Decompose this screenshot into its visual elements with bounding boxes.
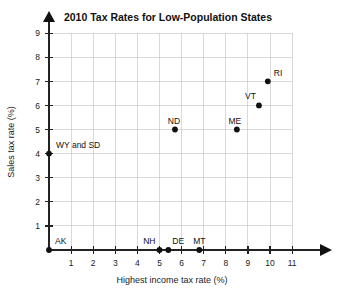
x-axis-arrow bbox=[320, 244, 332, 256]
y-tick-label: 6 bbox=[35, 101, 40, 111]
axes bbox=[43, 11, 332, 256]
data-point bbox=[172, 127, 178, 133]
x-tick-label: 4 bbox=[135, 258, 140, 268]
x-tick-label: 5 bbox=[157, 258, 162, 268]
data-point bbox=[234, 127, 240, 133]
chart-title: 2010 Tax Rates for Low-Population States bbox=[64, 11, 272, 23]
plot-canvas: 1234567891011 123456789 AKWY and SDNHDEM… bbox=[0, 0, 337, 294]
data-point bbox=[256, 103, 262, 109]
y-tick-label: 3 bbox=[35, 173, 40, 183]
data-point bbox=[46, 247, 52, 253]
data-point-label: DE bbox=[172, 236, 184, 246]
x-tick-label: 7 bbox=[201, 258, 206, 268]
y-tick-label: 9 bbox=[35, 28, 40, 38]
y-tick-label: 2 bbox=[35, 197, 40, 207]
data-point-label: RI bbox=[274, 68, 283, 78]
x-axis-title: Highest income tax rate (%) bbox=[116, 275, 227, 285]
y-tick-label: 4 bbox=[35, 149, 40, 159]
data-point-label: VT bbox=[245, 91, 256, 101]
data-point bbox=[265, 78, 271, 84]
data-point bbox=[157, 247, 163, 253]
x-tick-label: 2 bbox=[91, 258, 96, 268]
data-point-label: MT bbox=[193, 236, 205, 246]
data-point-label: WY and SD bbox=[56, 140, 100, 150]
x-tick-labels: 1234567891011 bbox=[69, 258, 297, 268]
data-point-label: NH bbox=[143, 236, 155, 246]
x-tick-label: 8 bbox=[223, 258, 228, 268]
data-point-label: ME bbox=[228, 116, 241, 126]
data-point-label: ND bbox=[168, 116, 180, 126]
x-tick-label: 1 bbox=[69, 258, 74, 268]
y-tick-labels: 123456789 bbox=[35, 28, 40, 231]
scatter-chart: 1234567891011 123456789 AKWY and SDNHDEM… bbox=[0, 0, 337, 294]
y-axis-title: Sales tax rate (%) bbox=[6, 106, 16, 178]
data-points bbox=[46, 78, 271, 253]
y-axis-arrow bbox=[43, 11, 55, 22]
data-point-label: AK bbox=[55, 236, 67, 246]
data-point bbox=[165, 247, 171, 253]
y-tick-label: 1 bbox=[35, 221, 40, 231]
y-tick-label: 8 bbox=[35, 52, 40, 62]
x-tick-label: 3 bbox=[113, 258, 118, 268]
data-point bbox=[196, 247, 202, 253]
x-tick-label: 9 bbox=[246, 258, 251, 268]
y-tick-label: 5 bbox=[35, 125, 40, 135]
x-tick-label: 10 bbox=[265, 258, 275, 268]
x-tick-label: 11 bbox=[288, 258, 297, 268]
y-tick-label: 7 bbox=[35, 77, 40, 87]
data-point bbox=[46, 151, 52, 157]
x-tick-label: 6 bbox=[179, 258, 184, 268]
